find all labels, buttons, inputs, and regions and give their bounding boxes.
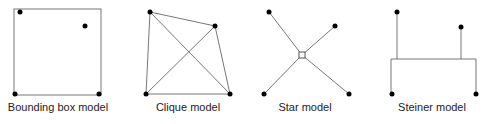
star-label: Star model bbox=[278, 101, 331, 113]
clique-diagram bbox=[144, 10, 233, 97]
steiner-diagram bbox=[390, 10, 479, 97]
clique-label: Clique model bbox=[156, 101, 220, 113]
steiner-label: Steiner model bbox=[398, 101, 466, 113]
bounding-box-diagram bbox=[13, 9, 102, 97]
star-center-node bbox=[299, 52, 305, 58]
star-diagram bbox=[262, 10, 352, 97]
bounding-box-label: Bounding box model bbox=[8, 101, 108, 113]
